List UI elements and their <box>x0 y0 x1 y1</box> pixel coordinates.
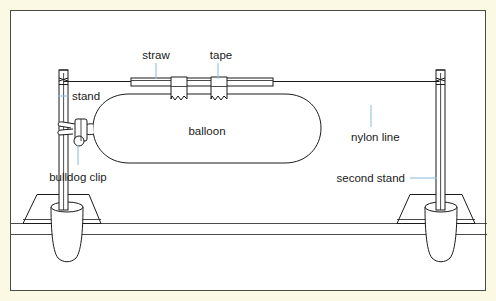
label-bulldog-clip: bulldog clip <box>49 171 107 183</box>
stand-right-clamp-loop <box>425 207 457 262</box>
tape-tab-right <box>211 77 227 100</box>
stand-right-group <box>397 70 475 262</box>
label-balloon: balloon <box>188 125 225 137</box>
bulldog-clip-pivot <box>74 136 84 146</box>
label-second-stand: second stand <box>337 172 405 184</box>
tape-tab-left <box>171 77 187 100</box>
label-straw: straw <box>142 49 170 61</box>
label-tape: tape <box>210 49 232 61</box>
straw-body <box>131 78 273 86</box>
stand-left-clamp-loop <box>51 207 83 262</box>
label-stand: stand <box>72 90 100 102</box>
label-nylon-line: nylon line <box>351 131 400 143</box>
figure-root: straw tape stand balloon nylon line bull… <box>0 0 496 301</box>
bulldog-clip-handle-lower <box>58 129 73 135</box>
diagram-panel: straw tape stand balloon nylon line bull… <box>10 10 486 291</box>
balloon-rocket-diagram: straw tape stand balloon nylon line bull… <box>11 11 487 292</box>
